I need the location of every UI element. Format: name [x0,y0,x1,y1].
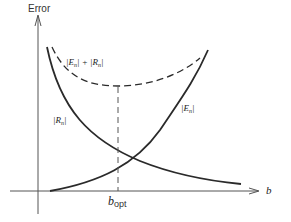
curve-r-n-label: |Rn| [53,115,66,126]
curve-sum-label: |En| + |Rn| [66,57,104,68]
b-opt-label: bopt [108,194,127,209]
curve-e-n [50,50,208,191]
x-axis-label: b [266,184,272,196]
y-axis-label: Error [28,3,51,14]
error-tradeoff-diagram: Error b bopt |En| + |Rn| |En| |Rn| [0,0,291,222]
curve-e-n-label: |En| [181,103,194,114]
